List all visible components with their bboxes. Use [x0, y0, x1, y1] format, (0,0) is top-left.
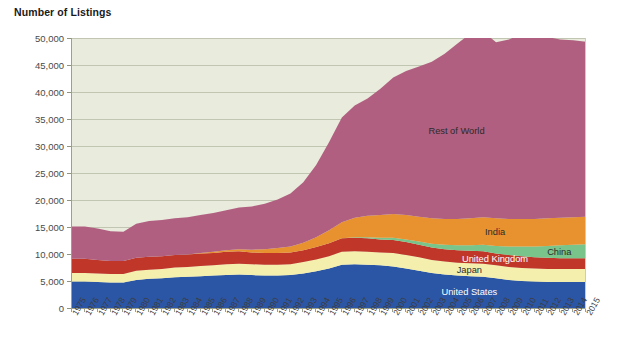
- y-axis-tick-label: 40,000: [0, 87, 64, 98]
- x-axis-tick: [367, 309, 368, 312]
- x-axis-tick: [84, 309, 85, 312]
- y-axis-tick-label: 50,000: [0, 33, 64, 44]
- plot-area: [71, 38, 586, 309]
- x-axis-tick: [174, 309, 175, 312]
- series-label-united-states: United States: [441, 287, 497, 297]
- x-axis-tick: [238, 309, 239, 312]
- x-axis-tick: [328, 309, 329, 312]
- x-axis-tick: [122, 309, 123, 312]
- y-axis-tick-label: 10,000: [0, 249, 64, 260]
- y-axis-tick-label: 30,000: [0, 141, 64, 152]
- x-axis-tick: [392, 309, 393, 312]
- x-axis-tick: [559, 309, 560, 312]
- y-axis-tick-label: 0: [0, 303, 64, 314]
- x-axis-tick: [289, 309, 290, 312]
- x-axis-tick: [212, 309, 213, 312]
- y-axis-tick-label: 25,000: [0, 168, 64, 179]
- x-axis-tick: [200, 309, 201, 312]
- chart-container: Number of Listings 05,00010,00015,00020,…: [0, 0, 618, 346]
- x-axis-tick: [148, 309, 149, 312]
- x-axis-tick: [251, 309, 252, 312]
- x-axis-tick: [457, 309, 458, 312]
- x-axis-tick: [315, 309, 316, 312]
- series-label-united-kingdom: United Kingdom: [462, 254, 528, 264]
- x-axis-tick: [225, 309, 226, 312]
- x-axis-tick: [135, 309, 136, 312]
- y-axis-tick-label: 15,000: [0, 222, 64, 233]
- x-axis-tick: [379, 309, 380, 312]
- series-label-rest-of-world: Rest of World: [428, 126, 484, 136]
- y-axis-tick-label: 35,000: [0, 114, 64, 125]
- x-axis-tick: [585, 309, 586, 312]
- x-axis-tick: [341, 309, 342, 312]
- x-axis-tick: [418, 309, 419, 312]
- y-axis-tick-label: 45,000: [0, 60, 64, 71]
- x-axis-tick: [482, 309, 483, 312]
- x-axis-tick: [521, 309, 522, 312]
- x-axis-tick: [97, 309, 98, 312]
- x-axis-tick: [431, 309, 432, 312]
- x-axis-tick: [534, 309, 535, 312]
- plot-right-edge: [585, 38, 586, 309]
- x-axis-tick: [444, 309, 445, 312]
- y-axis-tick-label: 20,000: [0, 195, 64, 206]
- x-axis-tick: [495, 309, 496, 312]
- x-axis-tick: [277, 309, 278, 312]
- x-axis-tick: [187, 309, 188, 312]
- x-axis-tick: [302, 309, 303, 312]
- series-label-china: China: [547, 247, 571, 257]
- x-axis-tick: [508, 309, 509, 312]
- x-axis-tick: [572, 309, 573, 312]
- x-axis-tick: [405, 309, 406, 312]
- x-axis-tick: [110, 309, 111, 312]
- x-axis-tick: [161, 309, 162, 312]
- plot-inner: [72, 38, 586, 308]
- x-axis-tick: [71, 309, 72, 312]
- x-axis-tick: [546, 309, 547, 312]
- x-axis-tick: [264, 309, 265, 312]
- y-axis-tick-label: 5,000: [0, 276, 64, 287]
- stacked-area-series: [72, 38, 586, 308]
- x-axis-tick: [354, 309, 355, 312]
- page-title: Number of Listings: [14, 6, 111, 18]
- series-label-japan: Japan: [457, 265, 482, 275]
- series-label-india: India: [485, 227, 505, 237]
- x-axis-tick: [469, 309, 470, 312]
